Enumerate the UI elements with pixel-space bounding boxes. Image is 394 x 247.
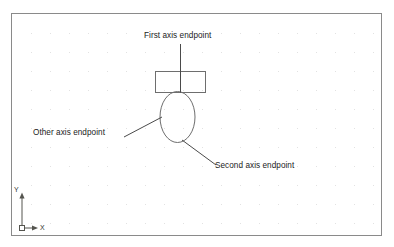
callout-label-other-axis-endpoint: Other axis endpoint — [33, 128, 105, 138]
ucs-x-axis-label: X — [40, 224, 45, 231]
callout-label-second-axis-endpoint: Second axis endpoint — [215, 161, 294, 171]
callout-label-first-axis-endpoint: First axis endpoint — [144, 31, 211, 41]
ucs-y-axis-label: Y — [14, 186, 19, 193]
diagram-screenshot: First axis endpoint Other axis endpoint … — [0, 0, 394, 247]
grid-dots — [13, 15, 380, 234]
drawing-viewport — [11, 13, 382, 236]
